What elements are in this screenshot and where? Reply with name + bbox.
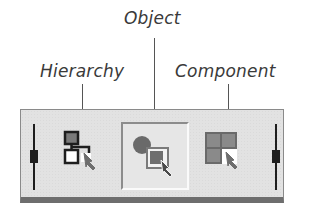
callout-label-component: Component: [175, 61, 276, 81]
grip-knob: [30, 150, 38, 163]
grip-knob: [272, 150, 280, 163]
toolbar-grip-right[interactable]: [271, 124, 281, 190]
selection-mode-toolbar: [20, 109, 284, 203]
callout-label-hierarchy: Hierarchy: [40, 61, 124, 81]
toolbar-grip-left[interactable]: [29, 124, 39, 190]
hierarchy-select-icon: [51, 122, 119, 190]
component-mode-button[interactable]: [193, 122, 261, 190]
component-select-icon: [193, 122, 261, 190]
object-mode-button[interactable]: [121, 122, 189, 190]
hierarchy-mode-button[interactable]: [51, 122, 119, 190]
object-select-icon: [123, 124, 187, 188]
callout-label-object: Object: [124, 8, 181, 28]
